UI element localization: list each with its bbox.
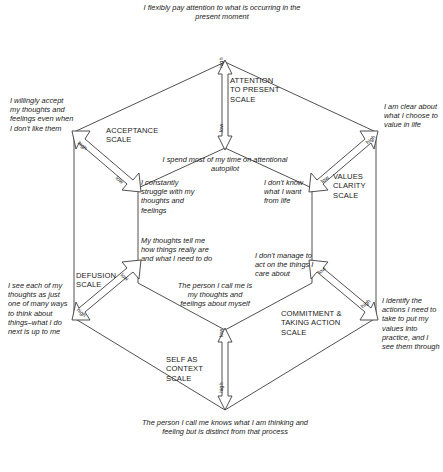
scale-label-values-clarity: VALUES CLARITY SCALE: [333, 172, 387, 200]
scale-label-line: CLARITY: [333, 181, 387, 190]
pole-high-self-as-context: high: [217, 382, 226, 393]
pole-high-attention-to-present: high: [217, 57, 226, 68]
inner-text-values-clarity: I don't know what I want from life: [264, 178, 318, 206]
arrow-attention-to-present: [218, 60, 232, 150]
scale-label-attention-to-present: ATTENTION TO PRESENT SCALE: [230, 76, 294, 104]
hexagon-graphic: [0, 0, 443, 472]
outer-text-defusion: I see each of my thoughts as just one of…: [8, 281, 70, 336]
scale-label-line: SELF AS: [166, 355, 216, 364]
scale-label-line: TAKING ACTION: [281, 318, 357, 327]
scale-label-line: CONTEXT: [166, 364, 216, 373]
scale-label-acceptance: ACCEPTANCE SCALE: [106, 126, 174, 145]
scale-label-line: ATTENTION: [230, 76, 294, 85]
arrow-self-as-context: [218, 328, 232, 410]
outer-text-commitment-taking-action: I identify the actions I need to take to…: [382, 296, 442, 351]
outer-text-attention-to-present: I flexibly pay attention to what is occu…: [131, 3, 313, 21]
scale-label-commitment-taking-action: COMMITMENT & TAKING ACTION SCALE: [281, 309, 357, 337]
inner-text-acceptance: I constantly struggle with my thoughts a…: [141, 178, 203, 215]
hexaflex-diagram: I flexibly pay attention to what is occu…: [0, 0, 443, 472]
scale-label-line: TO PRESENT: [230, 85, 294, 94]
scale-label-line: SCALE: [281, 328, 357, 337]
outer-text-self-as-context: The person I call me knows what I am thi…: [136, 418, 314, 436]
scale-label-line: ACCEPTANCE: [106, 126, 174, 135]
scale-label-line: SCALE: [230, 95, 294, 104]
inner-text-commitment-taking-action: I don't manage to act on the things I ca…: [255, 251, 317, 279]
scale-label-line: SCALE: [106, 135, 174, 144]
scale-label-line: COMMITMENT &: [281, 309, 357, 318]
pole-low-self-as-context: low: [217, 329, 226, 337]
inner-text-defusion: My thoughts tell me how things really ar…: [141, 236, 217, 264]
outer-text-values-clarity: I am clear about what I choose to value …: [384, 102, 442, 130]
scale-label-line: SCALE: [166, 374, 216, 383]
inner-text-attention-to-present: I spend most of my time on attentional a…: [150, 155, 300, 173]
scale-label-self-as-context: SELF AS CONTEXT SCALE: [166, 355, 216, 383]
outer-text-acceptance: I willingly accept my thoughts and feeli…: [10, 96, 74, 133]
pole-low-attention-to-present: low: [217, 124, 226, 132]
scale-label-line: VALUES: [333, 172, 387, 181]
inner-text-self-as-context: The person I call me is my thoughts and …: [176, 281, 254, 309]
scale-label-line: SCALE: [333, 191, 387, 200]
